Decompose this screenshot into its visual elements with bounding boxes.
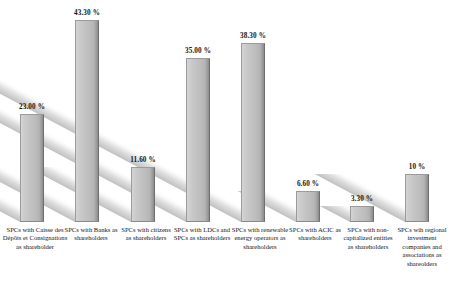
bar-6[interactable] — [296, 191, 320, 222]
bar-value-7: 3.30 % — [344, 195, 380, 203]
bar-8[interactable] — [405, 174, 429, 222]
category-label-2: SPCs with Banks as shareholders — [62, 226, 120, 243]
category-label-7: SPCs with non-capitalized entities as sh… — [341, 226, 395, 251]
category-label-8: SPCs wih regional investment companies a… — [394, 226, 450, 268]
bar-slot-6: 6.60 % — [296, 0, 332, 222]
bar-value-6: 6.60 % — [290, 180, 326, 188]
bar-slot-3: 11.60 % — [131, 0, 167, 222]
bar-2[interactable] — [75, 20, 99, 222]
bar-chart: 23.00 % 43.30 % 11.60 % 35.00 % 38.30 % — [0, 0, 453, 296]
category-label-1: SPCs with Caisse des Dépôts et Consignat… — [2, 226, 68, 251]
bar-value-4: 35.00 % — [180, 47, 216, 55]
bar-value-2: 43.30 % — [69, 9, 105, 17]
bar-value-1: 23.00 % — [14, 103, 50, 111]
category-label-4: SPCs with LDCs and SPCs as shareholders — [172, 226, 232, 243]
bar-value-3: 11.60 % — [125, 156, 161, 164]
plot-area: 23.00 % 43.30 % 11.60 % 35.00 % 38.30 % — [0, 0, 453, 222]
category-labels: SPCs with Caisse des Dépôts et Consignat… — [0, 222, 453, 296]
category-label-5: SPCs with renewable energy operators as … — [230, 226, 290, 251]
bar-value-8: 10 % — [399, 163, 435, 171]
bar-value-5: 38.30 % — [235, 32, 271, 40]
category-label-3: SPCs with citizens as shareholders — [118, 226, 174, 243]
bar-7[interactable] — [350, 206, 374, 222]
category-label-6: SPCs with ACIC as shareholders — [286, 226, 344, 243]
bar-3[interactable] — [131, 167, 155, 222]
bar-1[interactable] — [20, 114, 44, 222]
bar-slot-8: 10 % — [405, 0, 441, 222]
bar-slot-2: 43.30 % — [75, 0, 111, 222]
bar-5[interactable] — [241, 43, 265, 222]
bar-4[interactable] — [186, 58, 210, 222]
bar-slot-5: 38.30 % — [241, 0, 277, 222]
bar-slot-4: 35.00 % — [186, 0, 222, 222]
